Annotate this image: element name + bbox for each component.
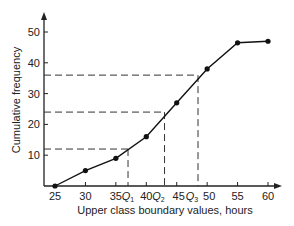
y-axis-arrow-icon	[41, 12, 47, 20]
x-axis-label: Upper class boundary values, hours	[77, 204, 253, 216]
data-point	[265, 39, 270, 44]
quartile-guides	[44, 75, 198, 186]
x-tick-label: 40	[140, 190, 152, 202]
y-tick-label: 10	[28, 149, 40, 161]
y-tick-label: 20	[28, 118, 40, 130]
x-tick-label: 30	[79, 190, 91, 202]
x-tick-label: 50	[203, 190, 215, 202]
data-point	[235, 40, 240, 45]
quartile-label: Q3	[186, 190, 199, 203]
axes	[41, 12, 282, 189]
ogive-line	[52, 39, 270, 189]
y-axis-label: Cumulative frequency	[10, 46, 22, 153]
quartile-label: Q1	[122, 190, 135, 203]
y-tick-label: 30	[28, 88, 40, 100]
tick-labels: 10203040502530354045505560Q1Q2Q3	[28, 26, 274, 203]
y-tick-label: 40	[28, 57, 40, 69]
x-tick-label: 45	[173, 190, 185, 202]
quartile-label: Q2	[152, 190, 165, 203]
data-point	[144, 134, 149, 139]
data-point	[52, 183, 57, 188]
data-point	[113, 156, 118, 161]
cumulative-frequency-chart: 10203040502530354045505560Q1Q2Q3 Upper c…	[0, 0, 294, 226]
data-point	[205, 66, 210, 71]
y-tick-label: 50	[28, 26, 40, 38]
data-point	[83, 168, 88, 173]
x-tick-label: 25	[49, 190, 61, 202]
x-axis-arrow-icon	[274, 183, 282, 189]
x-tick-label: 60	[262, 190, 274, 202]
x-tick-label: 55	[231, 190, 243, 202]
ogive-polyline	[55, 41, 268, 186]
x-tick-label: 35	[110, 190, 122, 202]
data-point	[174, 100, 179, 105]
